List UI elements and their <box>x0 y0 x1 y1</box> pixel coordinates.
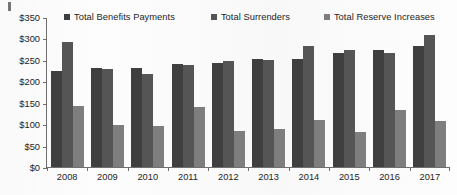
bar <box>344 50 355 167</box>
bar <box>263 60 274 167</box>
bar-group <box>208 18 248 167</box>
bar-group <box>168 18 208 167</box>
x-axis-label: 2009 <box>87 172 127 182</box>
x-axis-tick <box>128 167 129 171</box>
bar <box>153 126 164 167</box>
x-axis-tick <box>410 167 411 171</box>
bar-group <box>128 18 168 167</box>
bar <box>234 131 245 167</box>
bar <box>303 46 314 167</box>
x-axis-tick <box>87 167 88 171</box>
x-axis-label: 2011 <box>168 172 208 182</box>
y-axis-tick-label: $100 <box>19 120 40 130</box>
bar <box>373 50 384 167</box>
bar <box>102 69 113 167</box>
x-axis-tick <box>47 167 48 171</box>
bar-group <box>248 18 288 167</box>
y-axis-tick-label: $350 <box>19 13 40 23</box>
x-axis-tick <box>449 167 450 171</box>
bar <box>51 71 62 167</box>
bar <box>172 64 183 167</box>
y-axis-tick-label: $0 <box>30 163 40 173</box>
bar-group <box>87 18 127 167</box>
bar <box>435 121 446 167</box>
x-axis-label: 2017 <box>410 172 450 182</box>
x-axis-tick <box>289 167 290 171</box>
x-axis-label: 2010 <box>128 172 168 182</box>
x-axis-tick <box>168 167 169 171</box>
bar-group <box>47 18 87 167</box>
x-axis-label: 2015 <box>329 172 369 182</box>
bar <box>252 59 263 167</box>
x-axis-label: 2008 <box>47 172 87 182</box>
bar-chart: Total Benefits PaymentsTotal SurrendersT… <box>0 0 457 195</box>
x-axis-label: 2012 <box>208 172 248 182</box>
bar <box>131 68 142 167</box>
bar-group <box>329 18 369 167</box>
y-axis-tick-label: $250 <box>19 56 40 66</box>
y-axis-tick-label: $200 <box>19 77 40 87</box>
bar <box>355 132 366 167</box>
bar <box>212 63 223 167</box>
bar <box>73 106 84 167</box>
plot-area: $0$50$100$150$200$250$300$350 <box>46 18 450 168</box>
bar <box>292 59 303 167</box>
bar <box>395 110 406 167</box>
x-axis-tick <box>329 167 330 171</box>
bar-groups <box>47 18 450 167</box>
y-axis-tick-label: $150 <box>19 99 40 109</box>
y-axis-tick-label: $300 <box>19 34 40 44</box>
bar <box>183 65 194 167</box>
scan-artifact-mark <box>8 2 11 11</box>
bar <box>194 107 205 167</box>
x-axis-tick <box>369 167 370 171</box>
x-axis-label: 2013 <box>248 172 288 182</box>
bar-group <box>410 18 450 167</box>
bar <box>274 129 285 167</box>
bar <box>142 74 153 167</box>
bar <box>314 120 325 167</box>
bar-group <box>289 18 329 167</box>
x-axis-tick <box>248 167 249 171</box>
bar <box>384 53 395 167</box>
bar-group <box>369 18 409 167</box>
y-axis-tick-label: $50 <box>24 142 40 152</box>
bar <box>91 68 102 167</box>
bar <box>113 125 124 167</box>
bar <box>424 35 435 167</box>
bar <box>413 46 424 167</box>
x-axis-label: 2016 <box>369 172 409 182</box>
bar <box>333 53 344 167</box>
x-axis-label: 2014 <box>289 172 329 182</box>
bar <box>223 61 234 167</box>
x-axis-tick <box>208 167 209 171</box>
x-axis-labels: 2008200920102011201220132014201520162017 <box>47 172 450 182</box>
bar <box>62 42 73 167</box>
